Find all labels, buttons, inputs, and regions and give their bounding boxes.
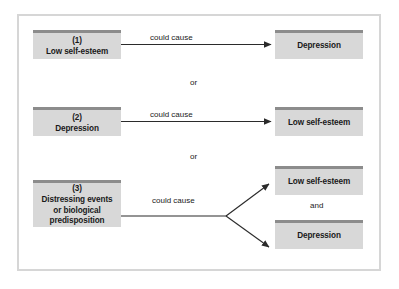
- box-line-3-0: Distressing events: [36, 195, 118, 206]
- concept-box-effect-3b: Depression: [275, 220, 363, 249]
- concept-box-effect-3a: Low self-esteem: [275, 166, 363, 195]
- connector-label-row-2: could cause: [150, 110, 193, 119]
- connector-label-row-1: could cause: [150, 33, 193, 42]
- box-line-3-2: predisposition: [36, 216, 118, 227]
- box-index-1: (1): [36, 36, 118, 47]
- box-line-effect-3b-0: Depression: [278, 231, 360, 242]
- box-line-3-1: or biological: [36, 206, 118, 217]
- diagram-root: (1) Low self-esteem could cause Depressi…: [0, 0, 399, 289]
- box-index-3: (3): [36, 184, 118, 195]
- box-line-effect-2-0: Low self-esteem: [278, 118, 360, 129]
- concept-box-cause-1: (1) Low self-esteem: [33, 30, 121, 59]
- concept-box-effect-1: Depression: [275, 30, 363, 59]
- row-separator-or-2: or: [190, 152, 197, 161]
- box-line-1-0: Low self-esteem: [36, 47, 118, 58]
- concept-box-cause-2: (2) Depression: [33, 107, 121, 136]
- box-index-2: (2): [36, 113, 118, 124]
- box-line-2-0: Depression: [36, 124, 118, 135]
- concept-box-cause-3: (3) Distressing events or biological pre…: [33, 180, 121, 227]
- effect-operator-and: and: [310, 201, 323, 210]
- box-line-effect-3a-0: Low self-esteem: [278, 177, 360, 188]
- row-separator-or-1: or: [190, 78, 197, 87]
- concept-box-effect-2: Low self-esteem: [275, 107, 363, 136]
- box-line-effect-1-0: Depression: [278, 41, 360, 52]
- connector-label-row-3: could cause: [152, 196, 195, 205]
